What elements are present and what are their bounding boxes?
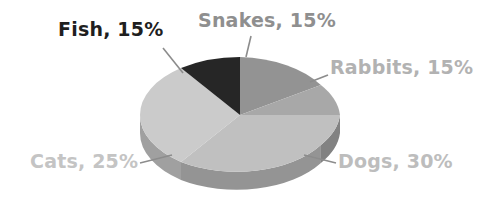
pie-label-rabbits: Rabbits, 15%: [330, 58, 473, 77]
pie-label-snakes: Snakes, 15%: [198, 11, 336, 30]
pie-label-fish: Fish, 15%: [58, 20, 163, 39]
leader-line-snakes: [246, 36, 251, 57]
pie-label-dogs: Dogs, 30%: [338, 152, 453, 171]
pie-chart: Fish, 15% Snakes, 15% Rabbits, 15% Dogs,…: [0, 0, 504, 213]
pie-label-cats: Cats, 25%: [30, 152, 138, 171]
leader-line-fish: [163, 48, 183, 73]
